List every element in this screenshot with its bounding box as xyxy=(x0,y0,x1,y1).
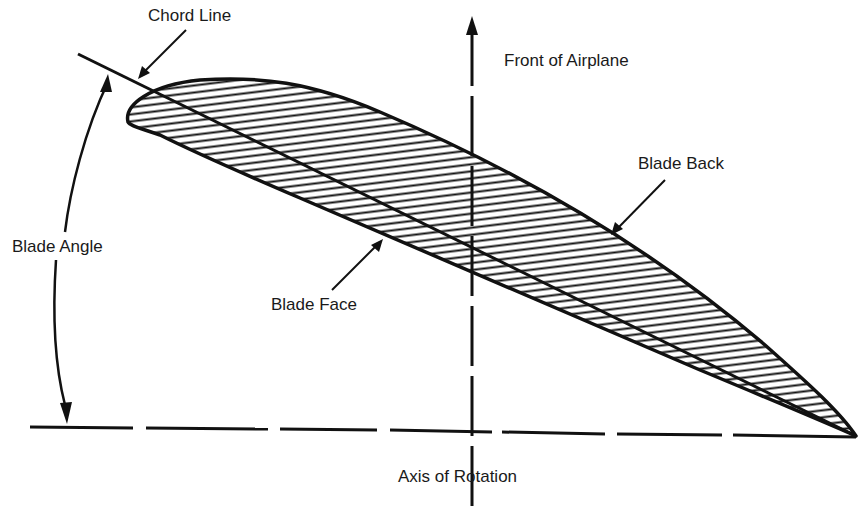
arrowhead-icon xyxy=(60,402,72,424)
blade-back-label: Blade Back xyxy=(638,155,724,172)
arrowhead-icon xyxy=(100,74,112,92)
chord-line-label: Chord Line xyxy=(148,7,231,24)
front-of-airplane-label: Front of Airplane xyxy=(504,52,629,69)
blade-angle-label: Blade Angle xyxy=(12,238,103,255)
blade-face-label: Blade Face xyxy=(271,296,357,313)
diagram-graphics xyxy=(0,0,866,527)
chord-line-leader xyxy=(138,30,186,79)
arrowhead-up-icon xyxy=(466,16,478,35)
blade-face-leader xyxy=(332,239,383,290)
chord-line xyxy=(78,54,856,436)
propeller-blade-diagram: Chord Line Front of Airplane Blade Back … xyxy=(0,0,866,527)
blade-back-leader xyxy=(611,180,665,235)
plane-of-rotation-line xyxy=(30,427,856,437)
axis-of-rotation-label: Axis of Rotation xyxy=(398,468,517,485)
